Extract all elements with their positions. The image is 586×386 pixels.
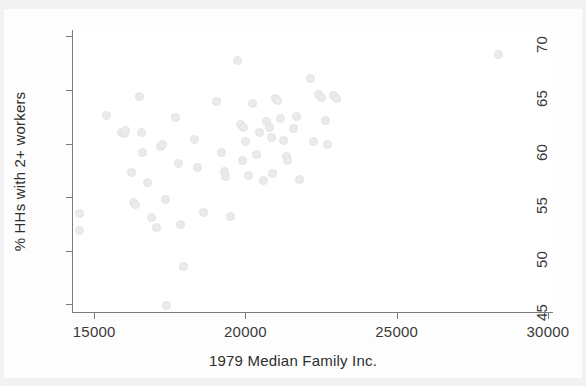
data-point [179, 262, 188, 271]
data-point [494, 50, 503, 59]
data-point [193, 163, 202, 172]
data-point [131, 200, 140, 209]
data-point [75, 209, 84, 218]
data-point [292, 112, 301, 121]
data-point [233, 56, 242, 65]
data-point [226, 212, 235, 221]
data-point [199, 208, 208, 217]
data-point [127, 168, 136, 177]
data-point [138, 148, 147, 157]
scatter-plot-figure: % HHs with 2+ workers 455055606570 15000… [0, 0, 586, 386]
x-axis-tick [94, 312, 95, 319]
data-point [162, 301, 171, 310]
y-axis-tick-label: 65 [533, 90, 550, 107]
data-point [217, 148, 226, 157]
data-point [259, 176, 268, 185]
data-point [276, 114, 285, 123]
data-point [102, 111, 111, 120]
data-point [255, 128, 264, 137]
data-point [174, 159, 183, 168]
data-point [241, 137, 250, 146]
data-point [252, 150, 261, 159]
data-point [321, 116, 330, 125]
y-axis-tick-label: 70 [533, 36, 550, 53]
data-point [221, 172, 230, 181]
data-point [283, 156, 292, 165]
data-point [152, 223, 161, 232]
data-point [161, 195, 170, 204]
data-point [143, 178, 152, 187]
data-point [121, 126, 130, 135]
y-axis-tick [66, 251, 73, 252]
data-point [135, 92, 144, 101]
y-axis-tick-label: 55 [533, 197, 550, 214]
x-axis-title: 1979 Median Family Inc. [0, 352, 586, 369]
data-point [279, 136, 288, 145]
y-axis-tick [66, 90, 73, 91]
data-point [239, 123, 248, 132]
y-axis-tick [66, 144, 73, 145]
y-axis-tick [66, 197, 73, 198]
y-axis-title-label: % HHs with 2+ workers [12, 92, 29, 252]
x-axis-tick [245, 312, 246, 319]
data-point [268, 169, 277, 178]
y-axis-tick [66, 36, 73, 37]
data-point [323, 140, 332, 149]
data-point [190, 135, 199, 144]
data-point [332, 94, 341, 103]
data-point [158, 140, 167, 149]
plot-area: 455055606570 15000200002500030000 [72, 30, 553, 313]
x-axis-tick [548, 312, 549, 319]
x-axis-tick-label: 15000 [73, 323, 116, 340]
data-point [265, 123, 274, 132]
data-point [295, 175, 304, 184]
x-axis-tick-label: 25000 [375, 323, 418, 340]
data-point [75, 226, 84, 235]
data-point [238, 156, 247, 165]
data-point [309, 137, 318, 146]
y-axis-tick [66, 304, 73, 305]
data-point [273, 96, 282, 105]
y-axis-title: % HHs with 2+ workers [10, 30, 30, 313]
data-point [267, 133, 276, 142]
x-axis-tick-label: 30000 [527, 323, 570, 340]
y-axis-tick-label: 50 [533, 251, 550, 268]
data-point [248, 99, 257, 108]
y-axis-tick-label: 60 [533, 144, 550, 161]
data-point [147, 213, 156, 222]
data-point [171, 113, 180, 122]
y-axis-tick-label: 45 [533, 304, 550, 321]
data-points-layer [73, 30, 553, 312]
data-point [176, 220, 185, 229]
data-point [317, 93, 326, 102]
data-point [244, 171, 253, 180]
data-point [212, 97, 221, 106]
x-axis-tick [397, 312, 398, 319]
data-point [137, 128, 146, 137]
x-axis-tick-label: 20000 [224, 323, 267, 340]
data-point [289, 124, 298, 133]
data-point [306, 74, 315, 83]
